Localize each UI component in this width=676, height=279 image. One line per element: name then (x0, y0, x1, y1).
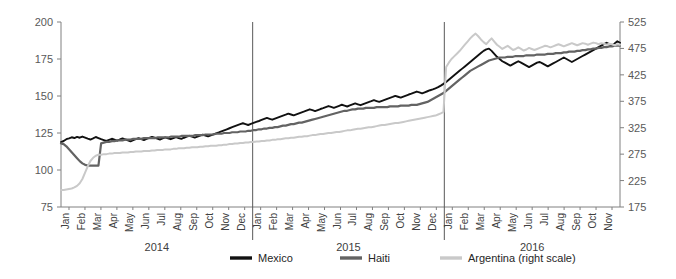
month-label: Mar (284, 212, 295, 230)
right-tick-label: 375 (628, 95, 646, 107)
left-tick-label: 175 (35, 53, 53, 65)
month-label: Feb (76, 213, 87, 231)
right-tick-label: 225 (628, 175, 646, 187)
right-axis: 175225275325375425475525 (620, 16, 646, 213)
month-label: Jan (252, 213, 263, 229)
left-axis: 75100125150175200 (35, 16, 61, 213)
month-label: Jun (140, 213, 151, 229)
month-label: Feb (459, 213, 470, 231)
line-chart: 75100125150175200 1752252753253754254755… (0, 0, 676, 279)
left-tick-label: 100 (35, 164, 53, 176)
right-tick-label: 325 (628, 122, 646, 134)
month-label: Oct (204, 213, 215, 229)
year-label: 2014 (145, 241, 169, 253)
month-label: May (316, 213, 327, 232)
month-label: Jun (523, 213, 534, 229)
month-label: Jun (332, 213, 343, 229)
x-axis (61, 207, 620, 210)
left-tick-label: 200 (35, 16, 53, 28)
month-label: Sep (571, 213, 582, 231)
month-label: Nov (220, 213, 231, 231)
month-label: Jan (443, 213, 454, 229)
month-label: Feb (268, 213, 279, 231)
right-tick-label: 175 (628, 201, 646, 213)
series-lines (61, 34, 620, 190)
month-label: Dec (427, 213, 438, 231)
month-label: Nov (411, 213, 422, 231)
month-label: Apr (491, 212, 502, 228)
chart-container: 75100125150175200 1752252753253754254755… (0, 0, 676, 279)
month-label: Sep (188, 213, 199, 231)
series-line-mexico (61, 41, 620, 142)
month-label: Nov (603, 213, 614, 231)
right-tick-label: 275 (628, 148, 646, 160)
legend-label: Mexico (258, 252, 293, 264)
year-label: 2015 (336, 241, 360, 253)
month-label: Aug (555, 213, 566, 231)
left-tick-label: 150 (35, 90, 53, 102)
month-label: Jul (539, 213, 550, 226)
month-label: Aug (363, 213, 374, 231)
left-tick-label: 75 (41, 201, 53, 213)
month-label: Apr (108, 212, 119, 228)
month-label: May (507, 213, 518, 232)
right-tick-label: 525 (628, 16, 646, 28)
month-label: Dec (236, 213, 247, 231)
month-label: Aug (172, 213, 183, 231)
month-label: Jul (156, 213, 167, 226)
month-label: Jan (60, 213, 71, 229)
legend-label: Haiti (368, 252, 390, 264)
month-label: Mar (475, 212, 486, 230)
chart-legend: MexicoHaitiArgentina (right scale) (230, 252, 576, 264)
month-tick-labels: JanFebMarAprMayJunJulAugSepOctNovDecJanF… (60, 212, 614, 232)
legend-label: Argentina (right scale) (468, 252, 576, 264)
month-label: Mar (92, 212, 103, 230)
month-label: May (124, 213, 135, 232)
month-label: Apr (300, 212, 311, 228)
month-label: Sep (379, 213, 390, 231)
right-tick-label: 425 (628, 69, 646, 81)
month-label: Jul (347, 213, 358, 226)
left-tick-label: 125 (35, 127, 53, 139)
month-label: Oct (587, 213, 598, 229)
month-label: Oct (395, 213, 406, 229)
right-tick-label: 475 (628, 42, 646, 54)
